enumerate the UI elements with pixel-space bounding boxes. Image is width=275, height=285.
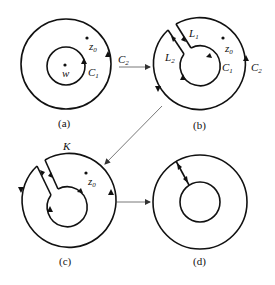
annulus-contour-diagram: w z0 C1 (a) C2 z0 L1 L2 C1 C2 (b)	[0, 0, 275, 285]
inner-contour	[47, 187, 87, 227]
label-c1: C1	[222, 61, 233, 75]
caption-a: (a)	[58, 117, 71, 130]
panel-d: (d)	[153, 155, 247, 268]
panel-c: z0 K (c)	[18, 140, 116, 268]
arrow-up-icon	[81, 58, 87, 64]
outer-circle	[153, 155, 247, 249]
label-w: w	[62, 67, 70, 79]
connector-b-to-c	[105, 106, 162, 164]
arrow-down-icon	[155, 86, 161, 92]
caption-d: (d)	[193, 255, 206, 268]
label-z0: z0	[88, 40, 97, 54]
arrow-cw-icon	[206, 53, 212, 58]
label-z0: z0	[224, 42, 233, 56]
arrow-up-icon	[180, 74, 186, 80]
label-z0: z0	[87, 175, 96, 189]
inner-contour-c1	[180, 46, 220, 86]
label-k: K	[62, 140, 71, 152]
connector-a-to-b: C2	[118, 53, 150, 67]
outer-contour	[22, 153, 116, 247]
caption-c: (c)	[59, 255, 72, 268]
panel-a: w z0 C1 (a)	[21, 19, 111, 130]
diagram-canvas: w z0 C1 (a) C2 z0 L1 L2 C1 C2 (b)	[0, 0, 275, 285]
label-c2: C2	[251, 61, 262, 75]
label-c1: C1	[88, 66, 99, 80]
label-l2: L2	[164, 51, 175, 65]
panel-b: z0 L1 L2 C1 C2 (b)	[153, 18, 262, 132]
label-l1: L1	[188, 27, 199, 41]
label-c2-connector: C2	[118, 53, 129, 67]
inner-circle	[180, 182, 220, 222]
caption-b: (b)	[193, 119, 206, 132]
arrow-up-icon	[243, 55, 249, 61]
outer-contour-c2	[153, 18, 245, 110]
arrow-up-icon	[108, 189, 114, 195]
point-z0	[221, 36, 224, 39]
